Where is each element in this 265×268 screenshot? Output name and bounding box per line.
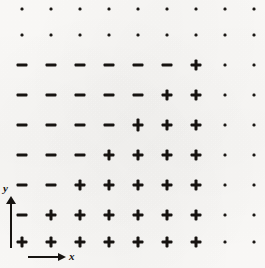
- dot-symbol: [224, 214, 227, 217]
- dot-symbol: [224, 241, 227, 244]
- minus-symbol: [46, 64, 57, 67]
- plus-symbol: [191, 210, 202, 221]
- plus-symbol: [75, 180, 86, 191]
- dot-symbol: [195, 8, 198, 11]
- plus-symbol: [133, 150, 144, 161]
- dot-symbol: [79, 34, 82, 37]
- plus-symbol: [133, 180, 144, 191]
- minus-symbol: [133, 64, 144, 67]
- dot-symbol: [50, 8, 53, 11]
- plus-symbol: [133, 210, 144, 221]
- minus-symbol: [17, 184, 28, 187]
- dot-symbol: [195, 34, 198, 37]
- minus-symbol: [133, 94, 144, 97]
- plus-symbol: [191, 60, 202, 71]
- plus-symbol: [191, 237, 202, 248]
- plus-symbol: [75, 210, 86, 221]
- plus-symbol: [162, 237, 173, 248]
- minus-symbol: [104, 94, 115, 97]
- dot-symbol: [224, 124, 227, 127]
- plus-symbol: [162, 210, 173, 221]
- plus-symbol: [104, 210, 115, 221]
- minus-symbol: [75, 154, 86, 157]
- dot-symbol: [253, 34, 256, 37]
- dot-symbol: [166, 34, 169, 37]
- dot-symbol: [224, 94, 227, 97]
- y-axis-arrowhead-icon: [6, 196, 16, 204]
- plus-symbol: [104, 237, 115, 248]
- dot-symbol: [224, 8, 227, 11]
- dot-symbol: [108, 34, 111, 37]
- plus-symbol: [162, 120, 173, 131]
- dot-symbol: [253, 214, 256, 217]
- plus-symbol: [75, 237, 86, 248]
- dot-symbol: [253, 154, 256, 157]
- minus-symbol: [75, 94, 86, 97]
- plus-symbol: [191, 90, 202, 101]
- dot-symbol: [253, 124, 256, 127]
- plus-symbol: [17, 237, 28, 248]
- plus-symbol: [191, 120, 202, 131]
- dot-symbol: [224, 64, 227, 67]
- symbol-grid-figure: y x: [0, 0, 265, 268]
- plus-symbol: [133, 120, 144, 131]
- dot-symbol: [50, 34, 53, 37]
- x-axis-arrowhead-icon: [58, 253, 66, 261]
- dot-symbol: [224, 34, 227, 37]
- plus-symbol: [133, 237, 144, 248]
- minus-symbol: [17, 64, 28, 67]
- y-axis-line: [10, 202, 12, 248]
- dot-symbol: [253, 184, 256, 187]
- dot-symbol: [137, 8, 140, 11]
- x-axis-label: x: [69, 251, 75, 262]
- minus-symbol: [46, 184, 57, 187]
- dot-symbol: [253, 241, 256, 244]
- dot-symbol: [79, 8, 82, 11]
- dot-symbol: [166, 8, 169, 11]
- x-axis-line: [28, 256, 60, 258]
- plus-symbol: [162, 180, 173, 191]
- minus-symbol: [75, 124, 86, 127]
- minus-symbol: [46, 154, 57, 157]
- minus-symbol: [104, 64, 115, 67]
- plus-symbol: [46, 210, 57, 221]
- minus-symbol: [162, 64, 173, 67]
- dot-symbol: [21, 34, 24, 37]
- minus-symbol: [17, 94, 28, 97]
- minus-symbol: [17, 124, 28, 127]
- dot-symbol: [224, 154, 227, 157]
- dot-symbol: [253, 94, 256, 97]
- plus-symbol: [46, 237, 57, 248]
- minus-symbol: [46, 94, 57, 97]
- minus-symbol: [46, 124, 57, 127]
- dot-symbol: [253, 8, 256, 11]
- plus-symbol: [162, 90, 173, 101]
- plus-symbol: [191, 180, 202, 191]
- minus-symbol: [75, 64, 86, 67]
- plus-symbol: [104, 180, 115, 191]
- y-axis-label: y: [3, 183, 8, 194]
- plus-symbol: [162, 150, 173, 161]
- dot-symbol: [108, 8, 111, 11]
- plus-symbol: [191, 150, 202, 161]
- dot-symbol: [137, 34, 140, 37]
- minus-symbol: [17, 214, 28, 217]
- minus-symbol: [17, 154, 28, 157]
- dot-symbol: [21, 8, 24, 11]
- plus-symbol: [104, 150, 115, 161]
- dot-symbol: [224, 184, 227, 187]
- dot-symbol: [253, 64, 256, 67]
- minus-symbol: [104, 124, 115, 127]
